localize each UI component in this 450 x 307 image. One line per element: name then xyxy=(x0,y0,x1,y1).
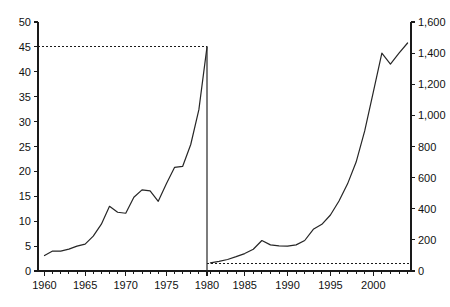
right-y-tick-label-400: 400 xyxy=(418,203,436,215)
x-tick-label-1985: 1985 xyxy=(232,279,256,291)
x-tick-label-1970: 1970 xyxy=(114,279,138,291)
right-y-tick-label-1,600: 1,600 xyxy=(418,16,446,28)
right-y-tick-label-1,200: 1,200 xyxy=(418,78,446,90)
left-y-tick-label-45: 45 xyxy=(19,41,31,53)
left-y-tick-label-0: 0 xyxy=(25,265,31,277)
x-tick-label-1965: 1965 xyxy=(73,279,97,291)
x-tick-label-1990: 1990 xyxy=(275,279,299,291)
right-data-curve xyxy=(210,43,407,263)
x-tick-label-1995: 1995 xyxy=(318,279,342,291)
right-y-tick-label-1,000: 1,000 xyxy=(418,109,446,121)
left-y-tick-label-20: 20 xyxy=(19,165,31,177)
dual-panel-line-chart: 1960196519701975198019851990199520000510… xyxy=(0,0,450,307)
left-y-tick-label-35: 35 xyxy=(19,91,31,103)
right-y-tick-label-800: 800 xyxy=(418,141,436,153)
left-y-tick-label-10: 10 xyxy=(19,215,31,227)
right-y-tick-label-600: 600 xyxy=(418,172,436,184)
left-data-curve xyxy=(45,47,208,256)
x-tick-label-1980: 1980 xyxy=(195,279,219,291)
left-y-tick-label-50: 50 xyxy=(19,16,31,28)
left-y-tick-label-5: 5 xyxy=(25,240,31,252)
left-y-tick-label-40: 40 xyxy=(19,66,31,78)
right-y-tick-label-1,400: 1,400 xyxy=(418,47,446,59)
right-y-tick-label-200: 200 xyxy=(418,234,436,246)
left-y-tick-label-25: 25 xyxy=(19,141,31,153)
x-tick-label-2000: 2000 xyxy=(361,279,385,291)
x-tick-label-1975: 1975 xyxy=(154,279,178,291)
right-y-tick-label-0: 0 xyxy=(418,265,424,277)
chart-canvas: 1960196519701975198019851990199520000510… xyxy=(0,0,450,307)
left-y-tick-label-30: 30 xyxy=(19,116,31,128)
left-y-tick-label-15: 15 xyxy=(19,190,31,202)
x-tick-label-1960: 1960 xyxy=(32,279,56,291)
